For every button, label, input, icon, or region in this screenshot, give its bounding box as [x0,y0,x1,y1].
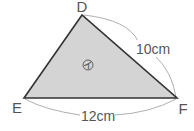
region-label: イ [83,60,93,71]
triangle-diagram: イ D E F 10cm 12cm [0,0,194,131]
vertex-label-e: E [12,99,22,116]
vertex-label-d: D [77,0,88,15]
vertex-label-f: F [178,100,187,117]
measure-label-df: 10cm [136,41,170,57]
measure-label-ef: 12cm [81,108,115,124]
